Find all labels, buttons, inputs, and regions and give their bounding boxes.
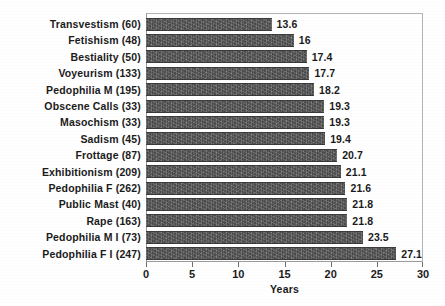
bar-value-label: 13.6 (277, 18, 298, 30)
bar-value-label: 21.6 (350, 182, 371, 194)
category-label: Voyeurism (133) (0, 67, 141, 79)
bar (146, 231, 363, 244)
bar-value-label: 17.7 (314, 67, 335, 79)
bar-value-label: 19.3 (329, 100, 350, 112)
x-axis-tick (146, 262, 147, 267)
bar (146, 182, 345, 195)
x-axis-tick (285, 262, 286, 267)
x-axis-tick (422, 262, 423, 267)
x-axis-tick-label: 10 (218, 268, 258, 281)
x-axis-tick (238, 262, 239, 267)
category-label: Masochism (33) (0, 116, 141, 128)
bar (146, 100, 324, 113)
bar-value-label: 21.8 (352, 198, 373, 210)
bar (146, 132, 325, 145)
x-axis-tick-label: 25 (357, 268, 397, 281)
x-axis-title: Years (146, 283, 423, 295)
bar (146, 67, 309, 80)
category-label: Pedophilia M I (73) (0, 231, 141, 243)
bar (146, 149, 337, 162)
bar-value-label: 21.8 (352, 215, 373, 227)
bar (146, 214, 347, 227)
bar-value-label: 20.7 (342, 149, 363, 161)
x-axis-tick-label: 15 (265, 268, 305, 281)
bar (146, 198, 347, 211)
x-axis-tick (377, 262, 378, 267)
bar (146, 50, 307, 63)
category-label: Bestiality (50) (0, 51, 141, 63)
x-axis: 051015202530 (146, 262, 423, 282)
bar-value-label: 23.5 (368, 231, 389, 243)
category-label: Public Mast (40) (0, 198, 141, 210)
x-axis-tick-label: 20 (311, 268, 351, 281)
bar-chart: Transvestism (60)Fetishism (48)Bestialit… (0, 0, 445, 306)
bar (146, 83, 314, 96)
bar (146, 247, 396, 260)
category-label: Transvestism (60) (0, 18, 141, 30)
category-axis: Transvestism (60)Fetishism (48)Bestialit… (0, 13, 141, 262)
bar (146, 165, 341, 178)
bar-value-label: 19.4 (330, 133, 351, 145)
bar (146, 116, 324, 129)
category-label: Obscene Calls (33) (0, 100, 141, 112)
category-label: Pedophilia F I (247) (0, 248, 141, 260)
category-label: Rape (163) (0, 215, 141, 227)
bar (146, 34, 294, 47)
bar-value-label: 27.1 (401, 248, 422, 260)
bar-value-label: 21.1 (346, 166, 367, 178)
bar-value-label: 16 (299, 34, 311, 46)
bar (146, 18, 272, 31)
x-axis-tick (192, 262, 193, 267)
x-axis-tick-label: 0 (126, 268, 166, 281)
category-label: Pedophilia F (262) (0, 182, 141, 194)
category-label: Exhibitionism (209) (0, 166, 141, 178)
bars-layer (146, 13, 423, 262)
category-label: Pedophilia M (195) (0, 84, 141, 96)
bar-value-label: 18.2 (319, 84, 340, 96)
category-label: Frottage (87) (0, 149, 141, 161)
x-axis-tick-label: 5 (172, 268, 212, 281)
x-axis-tick-label: 30 (403, 268, 443, 281)
x-axis-tick (331, 262, 332, 267)
bar-value-label: 19.3 (329, 116, 350, 128)
category-label: Fetishism (48) (0, 34, 141, 46)
category-label: Sadism (45) (0, 133, 141, 145)
bar-value-label: 17.4 (312, 51, 333, 63)
